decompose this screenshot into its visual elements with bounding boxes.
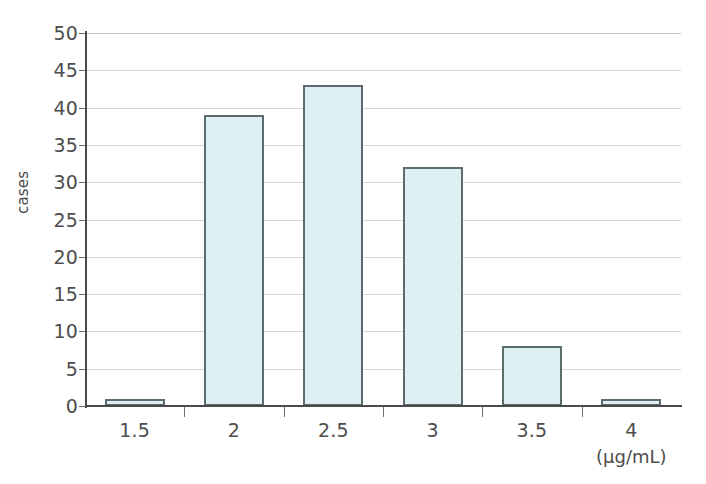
gridline [85, 182, 681, 183]
y-axis-tick-label: 50 [32, 22, 78, 44]
y-axis-tick-label: 10 [32, 320, 78, 342]
x-axis-tick-mark [582, 407, 583, 417]
y-axis-tick-label: 35 [32, 134, 78, 156]
x-axis-tick-mark [482, 407, 483, 417]
bar [204, 115, 264, 406]
plot-area [85, 33, 681, 406]
x-axis-tick-mark [184, 407, 185, 417]
gridline [85, 257, 681, 258]
gridline [85, 145, 681, 146]
gridline [85, 70, 681, 71]
gridline [85, 108, 681, 109]
x-axis-tick-label: 2.5 [288, 419, 378, 441]
gridline [85, 220, 681, 221]
y-axis-tick-label: 5 [32, 358, 78, 380]
x-axis-tick-mark [383, 407, 384, 417]
y-axis-tick-label: 25 [32, 209, 78, 231]
y-axis-tick-label: 30 [32, 171, 78, 193]
y-axis-tick-group: 05101520253035404550 [0, 0, 78, 484]
bar [303, 85, 363, 406]
gridline [85, 294, 681, 295]
x-axis-tick-label: 4 [586, 419, 676, 441]
y-axis-tick-label: 40 [32, 97, 78, 119]
bar [403, 167, 463, 406]
y-axis-line [85, 31, 87, 408]
y-axis-tick-label: 0 [32, 395, 78, 417]
y-axis-tick-label: 15 [32, 283, 78, 305]
x-axis-unit-label: (μg/mL) [571, 446, 691, 467]
gridline [85, 369, 681, 370]
bar-chart: cases 05101520253035404550 1.522.533.54 … [0, 0, 706, 484]
x-axis-tick-label: 3 [388, 419, 478, 441]
x-axis-tick-label: 1.5 [90, 419, 180, 441]
y-axis-tick-label: 20 [32, 246, 78, 268]
gridline [85, 331, 681, 332]
gridline [85, 33, 681, 34]
x-axis-tick-mark [284, 407, 285, 417]
bar [502, 346, 562, 406]
x-axis-tick-label: 2 [189, 419, 279, 441]
x-axis-tick-label: 3.5 [487, 419, 577, 441]
y-axis-tick-label: 45 [32, 59, 78, 81]
